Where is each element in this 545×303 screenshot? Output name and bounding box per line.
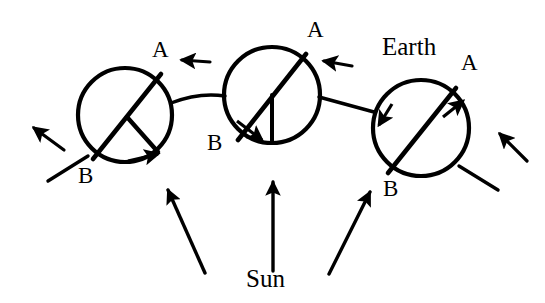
- orbit-arrow-far-right: [500, 134, 527, 161]
- sun-rays: [168, 182, 370, 274]
- sun-ray-left: [168, 190, 205, 273]
- earth-equator-left: [127, 117, 158, 152]
- earth-axis-right: [388, 88, 456, 173]
- sun-label: Sun: [246, 266, 285, 291]
- orbit-arrow-far-left: [34, 128, 64, 150]
- sun-ray-right: [329, 192, 370, 274]
- axis-label-b-right: B: [383, 177, 398, 200]
- orbit-segment-far-right: [459, 166, 498, 190]
- diagram-page: A B A B A B Earth Sun: [0, 0, 545, 303]
- earth-position-left: [78, 68, 172, 162]
- axis-label-a-middle: A: [307, 18, 324, 41]
- earth-position-middle: [224, 47, 320, 143]
- earth-orbit-diagram: [0, 0, 545, 303]
- earth-globe-right: [373, 80, 469, 176]
- orbit-segment-left-middle: [171, 95, 225, 103]
- axis-label-b-middle: B: [207, 131, 222, 154]
- axis-label-a-right: A: [461, 51, 478, 74]
- orbit-segment-middle-right: [319, 97, 374, 112]
- earth-position-right: [373, 80, 469, 176]
- axis-label-a-left: A: [152, 38, 169, 61]
- earth-globe-left: [78, 68, 172, 162]
- earth-rotation-arrow-right-left: [379, 104, 392, 125]
- axis-label-b-left: B: [78, 164, 93, 187]
- earth-label: Earth: [382, 34, 436, 59]
- orbit-arrow-between-left-middle: [182, 60, 210, 62]
- orbit-arrow-between-middle-right: [324, 61, 352, 66]
